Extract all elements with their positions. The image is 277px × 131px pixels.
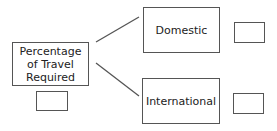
domestic-answer-box[interactable] [234, 22, 265, 43]
connector-root-domestic [96, 17, 139, 42]
international-label: International [146, 95, 216, 108]
connector-root-international [96, 63, 139, 96]
root-node-label: Percentage of Travel Required [20, 45, 82, 84]
domestic-node: Domestic [143, 7, 220, 53]
root-answer-box[interactable] [36, 91, 68, 111]
international-answer-box[interactable] [233, 93, 264, 114]
root-label-line-2: of Travel [20, 58, 82, 71]
root-label-line-1: Percentage [20, 45, 82, 58]
root-label-line-3: Required [20, 71, 82, 84]
root-node: Percentage of Travel Required [12, 42, 89, 86]
domestic-label: Domestic [156, 24, 208, 37]
international-node: International [142, 78, 220, 124]
